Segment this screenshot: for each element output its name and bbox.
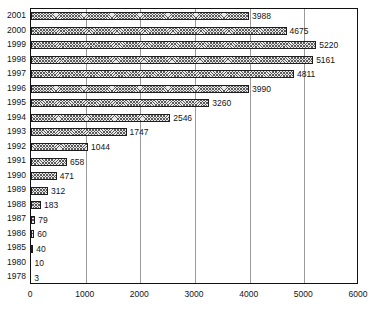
- bar-row: 2546: [31, 111, 357, 126]
- bar-row: 658: [31, 154, 357, 169]
- x-axis-label-6000: 6000: [349, 288, 368, 300]
- bar-row: 1747: [31, 125, 357, 140]
- bar-value-label-2001: 3988: [252, 12, 271, 20]
- y-axis-label-1987: 1987: [7, 211, 26, 226]
- bar-value-label-1985: 40: [36, 245, 45, 253]
- bar-value-label-1992: 1044: [91, 143, 110, 151]
- bar-1985: [31, 245, 33, 253]
- bar-value-label-1991: 658: [70, 158, 84, 166]
- bar-value-label-1988: 183: [44, 201, 58, 209]
- y-axis-label-1998: 1998: [7, 52, 26, 67]
- y-axis-label-1997: 1997: [7, 66, 26, 81]
- bar-1990: [31, 172, 57, 180]
- bar-1988: [31, 201, 41, 209]
- y-axis-label-1985: 1985: [7, 240, 26, 255]
- bar-value-label-1999: 5220: [319, 41, 338, 49]
- bar-row: 3260: [31, 96, 357, 111]
- bar-value-label-1987: 79: [38, 216, 47, 224]
- bar-value-label-1993: 1747: [130, 128, 149, 136]
- bar-1996: [31, 85, 249, 93]
- bar-2001: [31, 12, 249, 20]
- y-axis-label-1992: 1992: [7, 139, 26, 154]
- bar-row: 471: [31, 169, 357, 184]
- y-axis-label-1986: 1986: [7, 226, 26, 241]
- bar-value-label-1990: 471: [60, 172, 74, 180]
- bar-chart: 2001200019991998199719961995199419931992…: [0, 0, 376, 309]
- y-axis-label-2000: 2000: [7, 23, 26, 38]
- y-axis-label-1993: 1993: [7, 124, 26, 139]
- bar-row: 4811: [31, 67, 357, 82]
- bar-1992: [31, 143, 88, 151]
- bar-row: 4675: [31, 24, 357, 39]
- bar-value-label-1978: 3: [34, 274, 39, 282]
- bar-value-label-1995: 3260: [212, 99, 231, 107]
- bar-1987: [31, 216, 35, 224]
- y-axis-label-1995: 1995: [7, 95, 26, 110]
- x-axis-tick-labels: 0100020003000400050006000: [30, 288, 358, 304]
- bar-1980: [31, 259, 32, 267]
- y-axis-category-labels: 2001200019991998199719961995199419931992…: [0, 8, 28, 284]
- bar-value-label-1997: 4811: [297, 70, 315, 78]
- bar-1993: [31, 128, 127, 136]
- bar-row: 3990: [31, 82, 357, 97]
- bar-row: 3: [31, 270, 357, 285]
- bar-value-label-2000: 4675: [290, 27, 309, 35]
- bar-row: 79: [31, 212, 357, 227]
- plot-area: 3988467552205161481139903260254617471044…: [30, 8, 358, 284]
- bar-row: 312: [31, 183, 357, 198]
- bar-value-label-1989: 312: [51, 187, 65, 195]
- bar-value-label-1998: 5161: [316, 56, 335, 64]
- bar-row: 5161: [31, 53, 357, 68]
- bar-1986: [31, 230, 34, 238]
- y-axis-label-2001: 2001: [7, 8, 26, 23]
- bar-value-label-1980: 10: [35, 259, 44, 267]
- bar-1989: [31, 187, 48, 195]
- x-axis-label-3000: 3000: [185, 288, 204, 300]
- y-axis-label-1996: 1996: [7, 81, 26, 96]
- bar-1994: [31, 114, 170, 122]
- y-axis-label-1988: 1988: [7, 197, 26, 212]
- bar-1995: [31, 99, 209, 107]
- x-axis-label-1000: 1000: [75, 288, 94, 300]
- bar-1999: [31, 41, 316, 49]
- bar-row: 3988: [31, 9, 357, 24]
- bar-value-label-1986: 60: [37, 230, 46, 238]
- bar-1997: [31, 70, 294, 78]
- bar-row: 5220: [31, 38, 357, 53]
- bar-row: 40: [31, 241, 357, 256]
- y-axis-label-1999: 1999: [7, 37, 26, 52]
- bar-row: 183: [31, 198, 357, 213]
- x-axis-label-4000: 4000: [239, 288, 258, 300]
- x-axis-label-0: 0: [28, 288, 33, 300]
- y-axis-label-1989: 1989: [7, 182, 26, 197]
- x-axis-label-2000: 2000: [130, 288, 149, 300]
- bar-series: 3988467552205161481139903260254617471044…: [31, 9, 357, 283]
- bar-row: 1044: [31, 140, 357, 155]
- bar-value-label-1994: 2546: [173, 114, 192, 122]
- bar-row: 10: [31, 256, 357, 271]
- y-axis-label-1980: 1980: [7, 255, 26, 270]
- y-axis-label-1990: 1990: [7, 168, 26, 183]
- bar-2000: [31, 27, 287, 35]
- bar-value-label-1996: 3990: [252, 85, 271, 93]
- bar-1998: [31, 56, 313, 64]
- bar-1991: [31, 158, 67, 166]
- y-axis-label-1978: 1978: [7, 269, 26, 284]
- bar-row: 60: [31, 227, 357, 242]
- y-axis-label-1994: 1994: [7, 110, 26, 125]
- x-axis-label-5000: 5000: [294, 288, 313, 300]
- y-axis-label-1991: 1991: [7, 153, 26, 168]
